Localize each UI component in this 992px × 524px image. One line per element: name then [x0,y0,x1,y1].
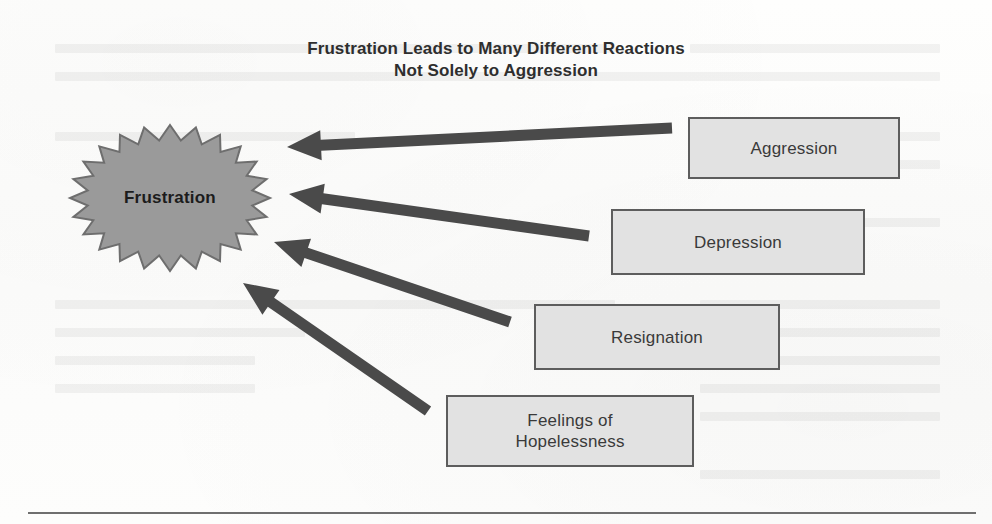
figure-page: Frustration Leads to Many Different Reac… [0,0,992,524]
reaction-box-aggression[interactable]: Aggression [688,117,900,179]
reaction-box-depression[interactable]: Depression [611,209,865,275]
arrow-resignation [274,239,512,327]
arrow-group [243,123,672,416]
reaction-box-hopelessness-label: Feelings of Hopelessness [515,410,624,452]
footer-rule [28,512,976,514]
central-node-label: Frustration [70,188,270,208]
reaction-box-resignation-label: Resignation [611,327,703,348]
reaction-box-aggression-label: Aggression [750,138,837,159]
arrow-depression [289,184,590,242]
arrow-hopelessness [243,283,431,416]
arrow-aggression [287,123,672,161]
reaction-box-hopelessness[interactable]: Feelings of Hopelessness [446,395,694,467]
reaction-box-depression-label: Depression [694,232,782,253]
reaction-box-resignation[interactable]: Resignation [534,304,780,370]
